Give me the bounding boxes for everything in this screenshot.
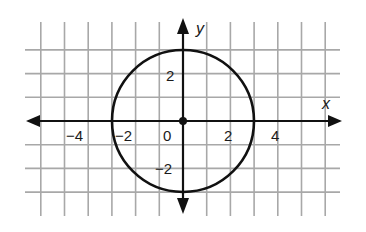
x-axis-right-arrow-icon: [328, 115, 342, 127]
center-point: [179, 117, 187, 125]
x-tick-0: 0: [163, 127, 171, 144]
y-tick-2: 2: [166, 67, 174, 84]
y-tick-neg2: −2: [155, 160, 172, 177]
x-axis-left-arrow-icon: [26, 115, 40, 127]
x-axis-label: x: [321, 95, 331, 112]
x-tick-neg2: −2: [115, 127, 132, 144]
x-tick-2: 2: [224, 127, 232, 144]
x-tick-neg4: −4: [66, 127, 83, 144]
y-axis-label: y: [195, 20, 205, 37]
x-tick-4: 4: [271, 127, 279, 144]
y-axis-down-arrow-icon: [177, 198, 189, 214]
coordinate-plane: y x −4 −2 0 2 4 2 −2: [0, 0, 366, 232]
axes: [26, 18, 342, 214]
y-axis-up-arrow-icon: [177, 18, 189, 34]
